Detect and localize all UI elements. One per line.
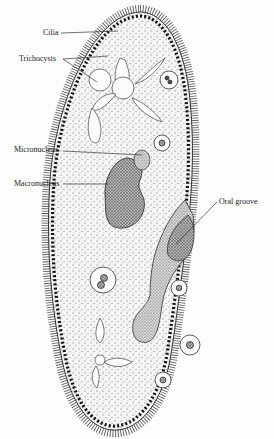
paramecium-diagram: Cilia Trichocysts Micronucleus Macronucl…: [0, 0, 274, 439]
label-macronucleus: Macronucleus: [14, 180, 59, 188]
label-cilia: Cilia: [43, 29, 59, 37]
label-trichocysts: Trichocysts: [19, 55, 56, 63]
micronucleus: [134, 150, 150, 170]
label-oral-groove: Oral groove: [219, 198, 257, 206]
label-micronucleus: Micronucleus: [14, 146, 58, 154]
paramecium-illustration: [0, 0, 274, 439]
